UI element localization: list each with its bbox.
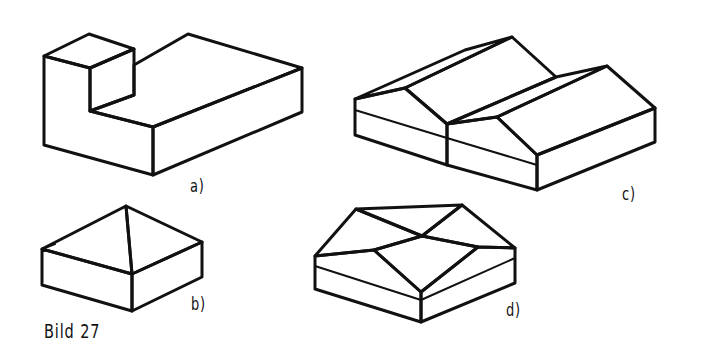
wall-face [447,117,537,190]
roof-face [422,205,515,248]
wall-face [42,249,132,311]
figure-caption: Bild 27 [44,320,100,342]
roof-face [356,205,462,236]
roof-face [355,37,512,99]
roof-face [44,34,134,68]
panel-d-label: d) [506,300,521,320]
panel-b-label: b) [191,294,206,314]
panel-a-drawing [44,34,302,175]
roof-face [126,206,202,274]
roof-face [42,206,132,274]
roof-face [315,209,422,256]
wall-face [355,88,447,165]
roof-face [497,66,655,155]
roof-face [447,66,607,124]
wall-face [315,250,421,322]
wall-face [421,247,515,322]
wall-face [153,68,302,175]
panel-c-drawing [355,37,655,190]
wall-face [537,108,655,190]
figure-canvas [0,0,702,352]
panel-b-drawing [42,206,202,311]
wall-face [90,49,134,111]
panel-c-label: c) [622,184,636,204]
wall-face [44,56,153,175]
panel-a-label: a) [190,176,205,196]
panel-d-drawing [315,205,515,322]
